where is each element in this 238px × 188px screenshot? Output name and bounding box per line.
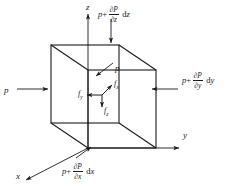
pressure-right-differential: dy [206,76,214,85]
pressure-label-right: p + ∂P ∂y dy [182,72,214,89]
pressure-bottom-denominator: ∂x [73,172,82,180]
pressure-label-top: p + ∂P ∂z dz [98,6,130,23]
pressure-top-numerator: ∂P [109,6,119,15]
axis-label-z: z [86,3,90,12]
figure-canvas: z y x p p p + ∂P ∂z dz p + ∂P ∂y dy p + … [0,0,238,188]
pressure-bottom-fraction: ∂P ∂x [73,163,83,180]
pressure-label-inner-top: p [115,64,120,73]
pressure-label-bottom: p + ∂P ∂x dx [62,163,94,180]
pressure-label-left: p [4,86,9,95]
pressure-arrows [17,19,178,158]
cube-connecting-edges [51,45,156,148]
pressure-right-fraction: ∂P ∂y [193,72,203,89]
force-label-z: fz [104,107,108,117]
body-force-arrows [87,85,112,107]
pressure-bottom-operator: + [66,167,71,176]
force-label-y: fy [78,90,83,100]
axis-label-x: x [16,172,20,181]
cube-front-face [88,70,156,148]
force-label-x: fx [114,80,119,90]
pressure-top-differential: dz [122,10,130,19]
arrow-force-x [102,85,112,95]
pressure-right-numerator: ∂P [193,72,203,81]
pressure-right-operator: + [186,76,191,85]
pressure-bottom-differential: dx [86,167,94,176]
pressure-right-denominator: ∂y [193,81,202,89]
pressure-bottom-numerator: ∂P [73,163,83,172]
cube-back-face [51,45,119,123]
pressure-top-denominator: ∂z [109,15,118,23]
axis-label-y: y [183,131,187,140]
arrow-pressure-bottom [76,147,91,158]
pressure-top-operator: + [102,10,107,19]
diagram-vector-art [0,0,238,188]
pressure-top-fraction: ∂P ∂z [109,6,119,23]
